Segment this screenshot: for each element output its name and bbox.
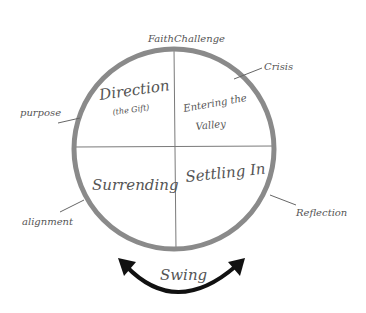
callout-reflection: Reflection (295, 207, 347, 218)
horizontal-divider (74, 146, 274, 147)
callout-alignment: alignment (22, 216, 74, 227)
callout-purpose: purpose (20, 107, 61, 118)
quadrant-direction-label: Direction (97, 76, 171, 104)
top-label: FaithChallenge (147, 33, 225, 44)
quadrant-settling-label: Settling In (185, 160, 267, 186)
swing-arrow-right-head-icon (228, 258, 245, 276)
callout-crisis: Crisis (264, 61, 293, 72)
quadrant-entering-label: Entering the (181, 92, 247, 114)
swing-label: Swing (160, 266, 207, 284)
reflection-leader-line (270, 195, 296, 205)
quadrant-direction-sublabel: (the Gift) (112, 103, 150, 117)
faith-cycle-diagram: FaithChallenge Direction (the Gift) Ente… (0, 0, 366, 313)
alignment-leader-line (60, 200, 84, 212)
quadrant-surrending-label: Surrending (92, 176, 178, 194)
vertical-divider (174, 48, 176, 250)
quadrant-valley-label: Valley (195, 118, 227, 132)
